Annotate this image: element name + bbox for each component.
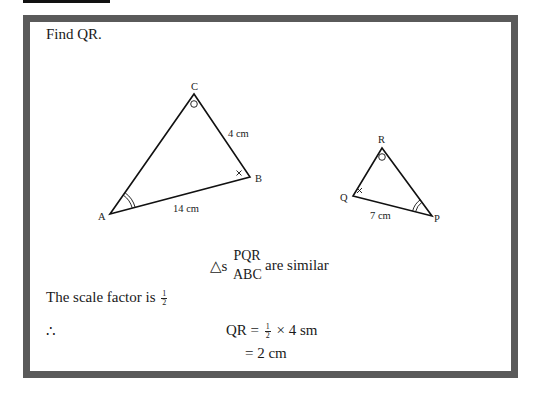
triangle-abc: C A B 4 cm 14 cm — [98, 81, 262, 222]
scale-factor-text: The scale factor is — [46, 289, 156, 305]
eq1-lhs: QR = — [226, 322, 259, 338]
eq1-rhs: × 4 sm — [277, 322, 318, 338]
scale-factor-fraction: 1 2 — [161, 290, 167, 307]
triangle-pqr: R Q P 7 cm — [340, 134, 440, 224]
side-ab-length: 14 cm — [173, 203, 199, 214]
vertex-c-label: C — [191, 81, 198, 92]
similar-top: PQR — [233, 246, 261, 265]
vertex-b-label: B — [255, 173, 262, 184]
vertex-p-label: P — [434, 213, 440, 224]
equation-qr: QR = 1 2 × 4 sm — [226, 322, 318, 340]
vertex-a-label: A — [98, 211, 106, 222]
angle-a-double-arc-icon — [124, 195, 133, 208]
therefore-symbol: ∴ — [46, 322, 56, 340]
scale-den: 2 — [161, 299, 167, 307]
vertex-q-label: Q — [340, 192, 348, 203]
eq1-fraction: 1 2 — [265, 323, 271, 340]
angle-q-cross-icon — [357, 188, 362, 193]
eq1-den: 2 — [265, 332, 271, 340]
vertex-r-label: R — [378, 134, 385, 145]
similar-bottom: ABC — [233, 265, 261, 284]
scale-factor-line: The scale factor is 1 2 — [46, 289, 169, 307]
angle-r-circle-icon — [379, 154, 386, 161]
similar-suffix: are similar — [265, 257, 329, 274]
side-bc-length: 4 cm — [228, 128, 249, 139]
similar-prefix: △s — [210, 257, 227, 275]
angle-c-circle-icon — [191, 101, 198, 108]
side-qp-length: 7 cm — [370, 210, 391, 221]
angle-b-cross-icon — [237, 171, 242, 176]
equation-result: = 2 cm — [245, 345, 287, 362]
similar-triangles-stack: PQR ABC — [233, 246, 261, 284]
